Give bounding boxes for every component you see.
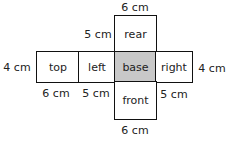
dim-rear-depth: 5 cm [84,28,111,41]
dim-top-height: 4 cm [3,61,30,74]
rear-face: rear [114,15,157,53]
left-label: left [88,61,106,74]
right-label: right [161,61,187,74]
dim-rear-width: 6 cm [121,1,148,14]
front-label: front [122,94,148,107]
dim-top-width: 6 cm [42,87,69,100]
dim-front-width: 6 cm [121,124,148,137]
rear-label: rear [124,28,146,41]
front-face: front [114,81,157,120]
base-face: base [114,51,157,83]
right-face: right [155,51,193,83]
dim-left-width: 5 cm [82,87,109,100]
base-label: base [122,61,148,74]
left-face: left [78,51,116,83]
top-face: top [36,51,80,83]
dim-right-height: 4 cm [198,62,225,75]
dim-right-width: 5 cm [160,88,187,101]
top-label: top [49,61,67,74]
